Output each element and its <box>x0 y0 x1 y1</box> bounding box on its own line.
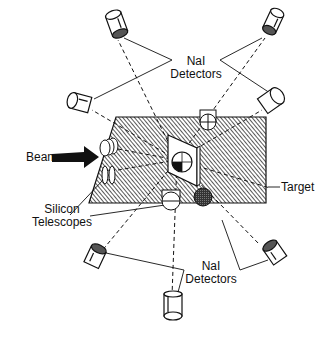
target-label: Target <box>281 181 314 194</box>
beam-label: Beam <box>26 151 57 164</box>
detector-inplane-bottom-left <box>162 190 180 210</box>
nai-detector-bottom-left <box>84 242 108 269</box>
nai-detector-bottom-center <box>164 291 182 320</box>
silicon-telescope-upper <box>100 138 118 156</box>
beam-arrow-icon <box>52 146 99 168</box>
nai-detector-mid-right <box>257 85 287 114</box>
detector-setup-diagram <box>0 0 327 362</box>
detector-inplane-top <box>200 110 216 130</box>
silicon-label-line2: Telescopes <box>32 216 92 229</box>
nai-detector-top-right <box>261 6 285 36</box>
nai-detector-mid-left <box>65 91 91 112</box>
nai-top-label-line2: Detectors <box>170 68 221 81</box>
nai-bottom-label-line2: Detectors <box>185 273 236 286</box>
nai-detector-top-left <box>104 8 129 40</box>
detector-inplane-bottom-right <box>194 188 212 206</box>
